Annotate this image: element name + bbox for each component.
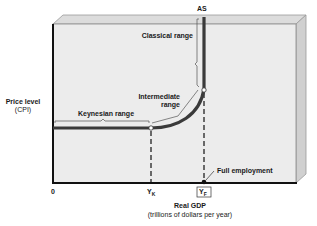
panel-side-face (296, 15, 306, 183)
as-curve-label: AS (197, 5, 207, 13)
yf-point (202, 88, 206, 92)
intermediate-range-label-1: Intermediate (130, 93, 180, 101)
panel-top-face (53, 15, 306, 24)
y-axis-label: Price level (0, 98, 46, 106)
full-employment-label: Full employment (217, 167, 273, 175)
full-employment-point (202, 180, 207, 185)
classical-range-label: Classical range (140, 32, 193, 40)
keynesian-range-label: Keynesian range (78, 110, 134, 118)
yk-tick-label: YK (147, 188, 155, 198)
origin-label: 0 (51, 188, 55, 196)
x-axis-label: Real GDP (130, 202, 250, 210)
yf-tick-label: YF (199, 188, 207, 198)
y-axis-sublabel: (CPI) (0, 106, 46, 114)
intermediate-range-label-2: range (130, 101, 180, 109)
yk-point (149, 126, 153, 130)
x-axis-sublabel: (trillions of dollars per year) (120, 211, 260, 219)
